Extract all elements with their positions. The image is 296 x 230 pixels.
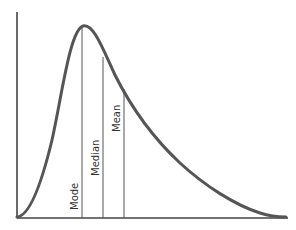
- distribution-curve: [17, 26, 286, 217]
- mode-label: Mode: [69, 183, 80, 210]
- median-label: Median: [90, 140, 101, 176]
- skewed-distribution-diagram: Mode Median Mean: [0, 0, 296, 230]
- mean-label: Mean: [111, 105, 122, 132]
